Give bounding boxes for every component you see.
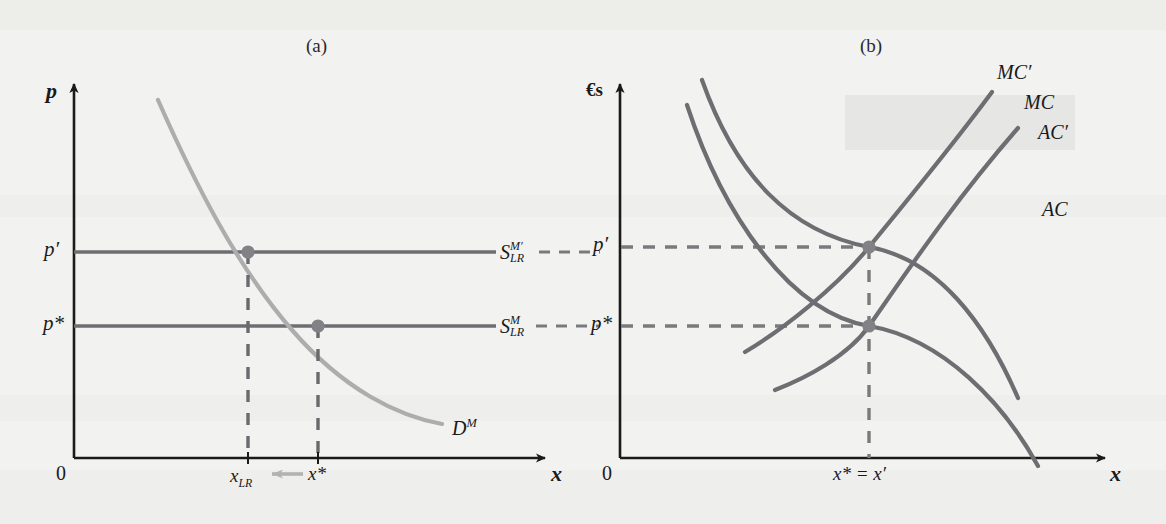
figure-svg: [0, 0, 1166, 524]
figure-container: (a) p x 0 p′ p* xLR x* DM SM′LR SMLR (b)…: [0, 0, 1166, 524]
panel-a-equilibrium-point-lr: [241, 245, 254, 258]
panel-b-curve-mc: [775, 128, 1018, 390]
panel-b-equilibrium-point-star: [862, 319, 875, 332]
panel-b-axes: [620, 84, 1105, 458]
panel-a-axes: [74, 84, 545, 458]
panel-a-curve-demand: [158, 100, 442, 424]
panel-b-equilibrium-point-prime: [862, 240, 875, 253]
panel-a-equilibrium-point-star: [311, 319, 324, 332]
panel-b-curve-mc-prime: [745, 92, 992, 352]
